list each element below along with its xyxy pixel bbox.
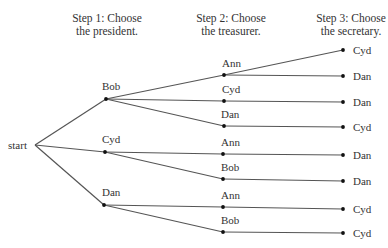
edge-dan-bob: [104, 205, 223, 232]
node-dot-cyd: [103, 150, 107, 154]
node-dot-t4: [221, 152, 225, 156]
node-dot-t1: [222, 73, 226, 77]
edge-start-dan: [35, 145, 104, 205]
step2-line2: the treasurer.: [186, 25, 276, 38]
step2-header: Step 2: Choose the treasurer.: [186, 12, 276, 38]
treasurer-label-3: Dan: [221, 108, 239, 120]
treasurer-label-5: Bob: [221, 161, 239, 173]
node-dot-s6: [341, 179, 345, 183]
node-dot-t3: [222, 124, 226, 128]
step1-line2: the president.: [62, 25, 152, 38]
node-dot-s2: [341, 74, 345, 78]
step3-header: Step 3: Choose the secretary.: [306, 12, 388, 38]
secretary-label-5: Dan: [353, 149, 371, 161]
node-dot-bob: [104, 97, 108, 101]
edge-dan-ann: [104, 205, 223, 207]
president-label-3: Dan: [102, 186, 120, 198]
edge-bob-ann: [106, 75, 224, 99]
node-dot-t2: [222, 99, 226, 103]
node-dot-s8: [341, 231, 345, 235]
edge-cyd-ann-dan: [223, 154, 343, 155]
node-dot-t6: [221, 205, 225, 209]
edge-bob-ann-dan: [224, 75, 343, 76]
node-dot-t7: [221, 230, 225, 234]
president-label-2: Cyd: [102, 133, 120, 145]
treasurer-label-7: Bob: [221, 214, 239, 226]
edge-cyd-bob: [105, 152, 223, 179]
secretary-label-2: Dan: [353, 70, 371, 82]
treasurer-label-2: Cyd: [222, 83, 240, 95]
secretary-label-4: Cyd: [353, 121, 371, 133]
edge-cyd-bob-dan: [223, 179, 343, 181]
edge-dan-ann-cyd: [223, 207, 343, 209]
node-dot-s4: [341, 125, 345, 129]
secretary-label-6: Dan: [353, 175, 371, 187]
node-dot-dan: [102, 203, 106, 207]
step2-line1: Step 2: Choose: [186, 12, 276, 25]
node-dot-s1: [341, 48, 345, 52]
step1-header: Step 1: Choose the president.: [62, 12, 152, 38]
node-dot-t5: [221, 177, 225, 181]
root-label: start: [8, 139, 27, 151]
edge-bob-dan: [106, 99, 224, 126]
edge-start-cyd: [35, 145, 105, 152]
treasurer-label-6: Ann: [221, 189, 240, 201]
edge-dan-bob-cyd: [223, 232, 343, 233]
secretary-label-7: Cyd: [353, 203, 371, 215]
node-dot-s5: [341, 153, 345, 157]
edge-start-bob: [35, 99, 106, 145]
node-dot-s7: [341, 207, 345, 211]
president-label-1: Bob: [102, 80, 120, 92]
treasurer-label-1: Ann: [222, 57, 241, 69]
secretary-label-1: Cyd: [353, 44, 371, 56]
secretary-label-3: Dan: [353, 96, 371, 108]
step3-line2: the secretary.: [306, 25, 388, 38]
treasurer-label-4: Ann: [221, 136, 240, 148]
edge-cyd-ann: [105, 152, 223, 154]
edge-bob-dan-cyd: [224, 126, 343, 127]
edge-bob-cyd: [106, 99, 224, 101]
step3-line1: Step 3: Choose: [306, 12, 388, 25]
node-dot-s3: [341, 100, 345, 104]
step1-line1: Step 1: Choose: [62, 12, 152, 25]
secretary-label-8: Cyd: [353, 227, 371, 239]
edge-bob-cyd-dan: [224, 101, 343, 102]
edge-bob-ann-cyd: [224, 50, 343, 75]
